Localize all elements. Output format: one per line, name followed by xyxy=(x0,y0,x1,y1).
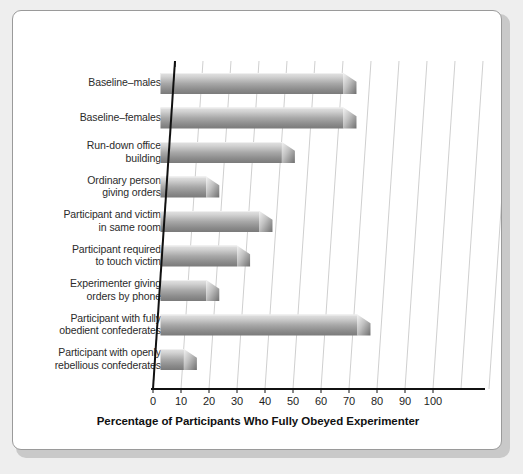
x-tick-label-10: 10 xyxy=(175,395,187,407)
x-tick-label-0: 0 xyxy=(150,395,156,407)
x-tick-label-30: 30 xyxy=(231,395,243,407)
x-tick-label-90: 90 xyxy=(399,395,411,407)
figure-root: Baseline–malesBaseline–femalesRun-down o… xyxy=(0,0,523,474)
x-tick-label-50: 50 xyxy=(287,395,299,407)
bars xyxy=(160,73,370,370)
x-tick-label-60: 60 xyxy=(315,395,327,407)
x-tick-label-40: 40 xyxy=(259,395,271,407)
x-axis-title: Percentage of Participants Who Fully Obe… xyxy=(13,415,502,427)
x-tick-label-80: 80 xyxy=(371,395,383,407)
x-tick-label-100: 100 xyxy=(424,395,442,407)
chart-panel: Baseline–malesBaseline–femalesRun-down o… xyxy=(12,10,502,450)
x-tick-label-20: 20 xyxy=(203,395,215,407)
plot-area xyxy=(13,11,502,450)
x-tick-label-70: 70 xyxy=(343,395,355,407)
